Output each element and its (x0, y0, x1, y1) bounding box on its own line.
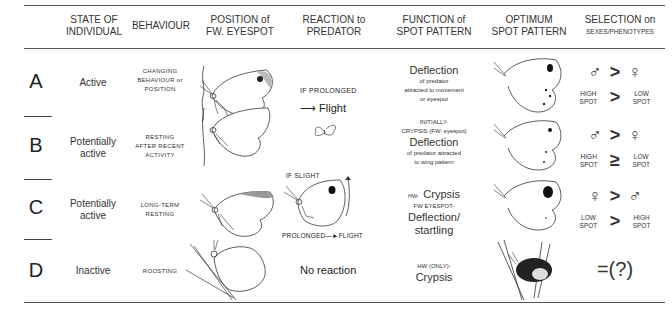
behaviour-c-line1: LONG-TERM (130, 201, 190, 210)
function-c-hw-label: HW- (408, 193, 419, 199)
header-optimum-line2: SPOT PATTERN (486, 26, 572, 38)
function-a-main: Deflection (384, 64, 484, 77)
reaction-a-outcome-text: Flight (319, 102, 346, 114)
relation-top: > (610, 186, 621, 206)
state-d: Inactive (58, 265, 128, 277)
row-letter-a: A (26, 70, 46, 93)
male-symbol-icon: ♂ (588, 125, 602, 145)
bottom-rule (24, 302, 665, 303)
header-function: FUNCTION of SPOT PATTERN (384, 14, 484, 38)
butterfly-b-position-illustration (198, 108, 280, 166)
row-separator (24, 116, 52, 117)
header-selection-line1: SELECTION on (572, 14, 668, 26)
header-rule (24, 48, 665, 49)
optimum-pattern-a-illustration (494, 56, 572, 118)
optimum-pattern-d-illustration (494, 238, 572, 300)
right-label: LOWSPOT (632, 153, 650, 169)
function-c-main: Deflection/ (384, 211, 484, 224)
behaviour-a-line2: BEHAVIOUR or (130, 76, 190, 85)
reaction-a-condition: IF PROLONGED (300, 87, 357, 94)
function-c-hw-main: Crypsis (423, 188, 460, 200)
state-b-line2: active (58, 148, 128, 160)
row-letter-b: B (26, 134, 46, 157)
header-state: STATE OF INDIVIDUAL (52, 14, 136, 38)
behaviour-b-line3: ACTIVITY (130, 151, 190, 160)
row-separator (24, 239, 52, 240)
behaviour-d: ROOSTING (130, 267, 190, 276)
butterfly-d-position-illustration (190, 240, 280, 302)
male-symbol-icon: ♂ (588, 62, 602, 82)
function-c-main2: startling (384, 224, 484, 237)
selection-b: ♂>♀ HIGHSPOT ≥ LOWSPOT (570, 125, 660, 171)
function-b-line2: to wing pattern (384, 158, 484, 167)
arrow-right-icon: ⟶ (300, 102, 316, 114)
function-b-line1: of predator attracted (384, 149, 484, 158)
header-optimum-line1: OPTIMUM (486, 14, 572, 26)
behaviour-c: LONG-TERM RESTING (130, 201, 190, 219)
male-symbol-icon: ♂ (628, 186, 642, 206)
flying-butterfly-icon (310, 120, 340, 142)
butterfly-c-position-illustration (200, 186, 280, 240)
row-letter-d: D (26, 259, 46, 282)
header-selection: SELECTION on SEXES/PHENOTYPES (572, 14, 668, 38)
female-symbol-icon: ♀ (588, 186, 602, 206)
header-selection-line2: SEXES/PHENOTYPES (572, 26, 668, 38)
relation-bottom: > (610, 87, 621, 107)
header-reaction-line2: PREDATOR (292, 26, 376, 38)
state-b-line1: Potentially (58, 136, 128, 148)
function-a-line3: or eyespot (384, 95, 484, 104)
relation-bottom: > (610, 211, 621, 231)
state-c-line1: Potentially (58, 198, 128, 210)
header-state-line1: STATE OF (52, 14, 136, 26)
function-b: INITIALLY- CRYPSIS (FW. eyespot) Deflect… (384, 118, 484, 167)
optimum-pattern-b-illustration (494, 118, 572, 176)
butterfly-c-reaction-illustration (284, 176, 354, 232)
relation-bottom: ≥ (610, 150, 620, 170)
state-c-line2: active (58, 210, 128, 222)
reaction-c-outcome: PROLONGED—►FLIGHT (282, 232, 363, 239)
function-c-fw-label: FW EYESPOT- (384, 202, 484, 211)
function-d: HW (ONLY)- Crypsis (384, 262, 484, 284)
selection-d: =(?) (570, 258, 660, 281)
behaviour-a-line3: POSITION (130, 85, 190, 94)
behaviour-a: CHANGING BEHAVIOUR or POSITION (130, 67, 190, 94)
left-label: HIGHSPOT (580, 90, 598, 106)
header-reaction-line1: REACTION to (292, 14, 376, 26)
behaviour-b-line1: RESTING (130, 133, 190, 142)
header-function-line1: FUNCTION of (384, 14, 484, 26)
relation-top: > (610, 125, 621, 145)
function-a: Deflection of predator attracted to move… (384, 64, 484, 104)
row-letter-c: C (26, 196, 46, 219)
behaviour-b-line2: AFTER RECENT (130, 142, 190, 151)
selection-a: ♂>♀ HIGHSPOT > LOWSPOT (570, 62, 660, 108)
function-c: HW- Crypsis FW EYESPOT- Deflection/ star… (384, 184, 484, 237)
function-a-line1: of predator (384, 77, 484, 86)
function-d-main: Crypsis (384, 271, 484, 284)
optimum-pattern-c-illustration (494, 178, 572, 236)
left-label: LOWSPOT (580, 214, 598, 230)
header-position: POSITION of FW. EYESPOT (196, 14, 284, 38)
header-optimum: OPTIMUM SPOT PATTERN (486, 14, 572, 38)
behaviour-b: RESTING AFTER RECENT ACTIVITY (130, 133, 190, 160)
reaction-a-outcome: ⟶ Flight (300, 102, 346, 115)
state-a: Active (58, 77, 128, 89)
behaviour-c-line2: RESTING (130, 210, 190, 219)
female-symbol-icon: ♀ (628, 125, 642, 145)
header-position-line1: POSITION of (196, 14, 284, 26)
relation-top: > (610, 62, 621, 82)
header-position-line2: FW. EYESPOT (196, 26, 284, 38)
selection-c: ♀>♂ LOWSPOT > HIGHSPOT (570, 186, 660, 232)
top-rule (24, 5, 665, 6)
function-b-pre2: CRYPSIS (FW. eyespot) (384, 127, 484, 136)
left-label: HIGHSPOT (580, 153, 598, 169)
function-b-pre1: INITIALLY- (384, 118, 484, 127)
row-separator (24, 179, 52, 180)
function-d-pre: HW (ONLY)- (384, 262, 484, 271)
female-symbol-icon: ♀ (628, 62, 642, 82)
header-behaviour: BEHAVIOUR (130, 20, 192, 32)
header-function-line2: SPOT PATTERN (384, 26, 484, 38)
state-b: Potentially active (58, 136, 128, 160)
right-label: HIGHSPOT (633, 214, 651, 230)
state-c: Potentially active (58, 198, 128, 222)
header-state-line2: INDIVIDUAL (52, 26, 136, 38)
